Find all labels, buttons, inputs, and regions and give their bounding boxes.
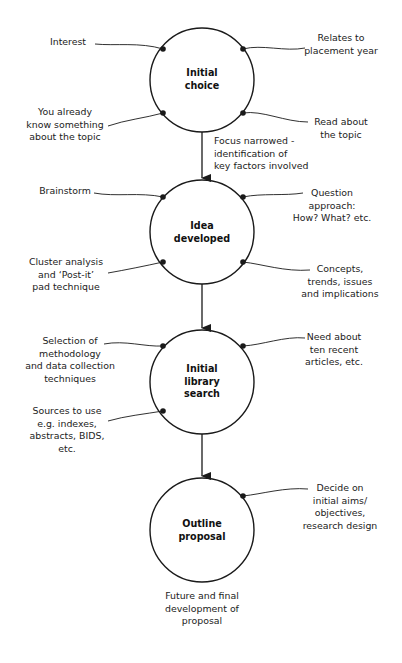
node-title-initial-choice: Initial choice	[157, 67, 247, 92]
label-concepts-trends: Concepts, trends, issues and implication…	[298, 263, 382, 301]
edge-label-focus-narrowed: Focus narrowed - identification of key f…	[214, 135, 308, 173]
label-relates-to-placement-year: Relates to placement year	[300, 32, 382, 57]
connector-dot-icon	[240, 46, 246, 52]
connector-dot-icon	[240, 493, 246, 499]
label-read-about-the-topic: Read about the topic	[306, 116, 376, 141]
connector-dot-icon	[240, 110, 246, 116]
node-title-idea-developed: Idea developed	[157, 220, 247, 245]
connector-dot-icon	[240, 259, 246, 265]
label-brainstorm: Brainstorm	[34, 185, 96, 198]
connector-dot-icon	[160, 259, 166, 265]
connector-dot-icon	[240, 343, 246, 349]
connector-dot-icon	[160, 408, 166, 414]
connector-dot-icon	[160, 343, 166, 349]
connector-dot-icon	[160, 110, 166, 116]
label-cluster-analysis: Cluster analysis and ‘Post-it’ pad techn…	[24, 256, 108, 294]
connector-dot-icon	[240, 194, 246, 200]
label-selection-of-methodology: Selection of methodology and data collec…	[20, 335, 120, 385]
connector-dot-icon	[160, 194, 166, 200]
node-title-outline-proposal: Outline proposal	[157, 518, 247, 543]
label-interest: Interest	[40, 36, 96, 49]
label-future-and-final-development: Future and final development of proposal	[157, 590, 247, 628]
node-title-initial-library-search: Initial library search	[157, 363, 247, 401]
label-need-about-ten-articles: Need about ten recent articles, etc.	[298, 331, 370, 369]
label-sources-to-use: Sources to use e.g. indexes, abstracts, …	[22, 405, 112, 455]
connector-dot-icon	[160, 46, 166, 52]
label-decide-on-initial-aims: Decide on initial aims/ objectives, rese…	[298, 482, 382, 532]
label-question-approach: Question approach: How? What? etc.	[288, 187, 376, 225]
label-you-already-know: You already know something about the top…	[22, 106, 108, 144]
